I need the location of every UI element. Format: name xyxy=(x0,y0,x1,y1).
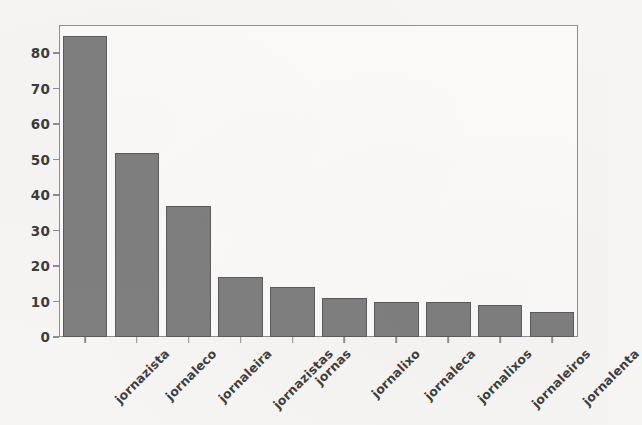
y-tick-label: 10 xyxy=(31,294,50,310)
bar xyxy=(218,277,263,337)
y-axis: 01020304050607080 xyxy=(0,0,59,425)
bar xyxy=(166,206,211,337)
x-tick-mark xyxy=(136,337,138,343)
bar xyxy=(270,287,315,337)
x-axis: jornazistajornalecojornaleirajornazistas… xyxy=(59,337,578,425)
x-tick-mark xyxy=(499,337,501,343)
x-tick-mark xyxy=(292,337,294,343)
bar xyxy=(115,153,160,337)
y-tick-label: 40 xyxy=(31,187,50,203)
x-tick-label: jornalixo xyxy=(369,346,424,401)
y-tick-label: 80 xyxy=(31,45,50,61)
x-tick-mark xyxy=(240,337,242,343)
x-tick-mark xyxy=(551,337,553,343)
bar xyxy=(426,302,471,337)
x-tick-label: jornazista xyxy=(112,346,173,407)
bars-layer xyxy=(59,25,578,337)
y-tick-label: 60 xyxy=(31,116,50,132)
y-tick-label: 20 xyxy=(31,258,50,274)
x-tick-mark xyxy=(84,337,86,343)
y-tick-label: 70 xyxy=(31,81,50,97)
x-tick-mark xyxy=(188,337,190,343)
x-tick-mark xyxy=(344,337,346,343)
bar xyxy=(322,298,367,337)
bar xyxy=(63,36,108,337)
x-tick-mark xyxy=(447,337,449,343)
bar xyxy=(374,302,419,337)
x-tick-mark xyxy=(396,337,398,343)
x-tick-label: jornaleca xyxy=(422,346,479,403)
y-tick-label: 50 xyxy=(31,152,50,168)
x-tick-label: jornalixos xyxy=(475,346,535,406)
x-tick-label: jornaleira xyxy=(215,346,274,405)
y-tick-label: 30 xyxy=(31,223,50,239)
y-tick-label: 0 xyxy=(40,329,50,345)
bar xyxy=(530,312,575,337)
bar xyxy=(478,305,523,337)
